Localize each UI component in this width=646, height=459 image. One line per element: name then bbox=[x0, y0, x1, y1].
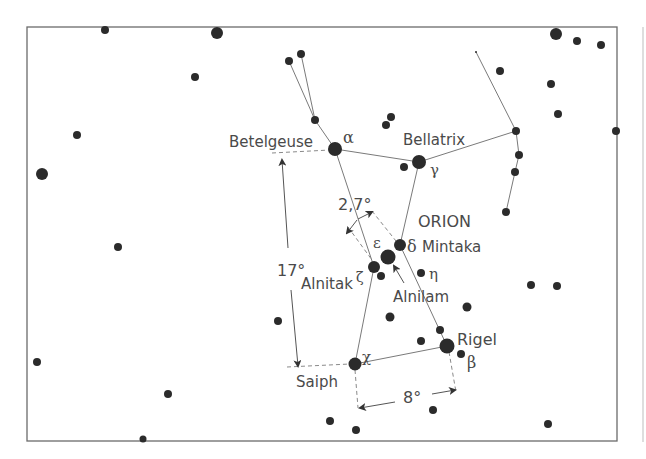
label-orion: ORION bbox=[418, 212, 471, 231]
label-saiph: Saiph bbox=[296, 373, 338, 391]
star-saiph bbox=[349, 358, 362, 371]
label-belt-width: 2,7° bbox=[338, 195, 371, 214]
label-alpha: α bbox=[343, 128, 354, 147]
label-beta: β bbox=[467, 353, 476, 372]
label-delta: δ bbox=[407, 237, 417, 256]
star-bellatrix bbox=[412, 155, 426, 169]
label-gamma: γ bbox=[430, 161, 439, 179]
label-alnitak: Alnitak bbox=[301, 275, 353, 293]
label-epsilon: ε bbox=[373, 234, 381, 252]
label-betelgeuse: Betelgeuse bbox=[229, 133, 313, 151]
label-rigel: Rigel bbox=[457, 330, 497, 349]
star-alnitak bbox=[368, 261, 380, 273]
label-bellatrix: Bellatrix bbox=[403, 131, 465, 149]
star-rigel bbox=[440, 339, 455, 354]
label-mintaka: Mintaka bbox=[422, 238, 481, 256]
star-betelgeuse bbox=[328, 142, 342, 156]
label-eta: η bbox=[429, 265, 438, 283]
label-chi: χ bbox=[362, 348, 371, 366]
star-eta bbox=[417, 269, 425, 277]
label-alnilam: Alnilam bbox=[393, 288, 449, 306]
label-zeta: ζ bbox=[356, 269, 364, 285]
star-mintaka bbox=[394, 239, 406, 251]
label-base-width: 8° bbox=[403, 388, 421, 407]
star-alnilam bbox=[381, 250, 396, 265]
orion-star-chart: Betelgeuse α Bellatrix γ ORION 2,7° ε δ … bbox=[0, 0, 646, 459]
